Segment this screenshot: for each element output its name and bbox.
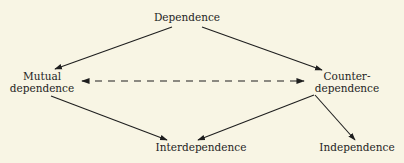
node-dependence: Dependence: [154, 11, 220, 23]
node-counter-line1: Counter-: [315, 70, 379, 82]
node-counter-line2: dependence: [315, 82, 379, 94]
edge-dependence-to-mutual: [55, 27, 172, 69]
node-independence-label: Independence: [319, 141, 394, 153]
node-mutual-dependence: Mutual dependence: [10, 70, 74, 94]
edge-dependence-to-counter: [202, 27, 322, 70]
edge-counter-to-interdependence: [198, 95, 314, 140]
node-independence: Independence: [319, 141, 394, 153]
node-counter-dependence: Counter- dependence: [315, 70, 379, 94]
edge-mutual-to-interdependence: [51, 96, 167, 140]
node-dependence-label: Dependence: [154, 11, 220, 23]
node-mutual-line2: dependence: [10, 82, 74, 94]
node-interdependence: Interdependence: [156, 141, 247, 153]
edge-counter-to-independence: [315, 95, 355, 140]
node-mutual-line1: Mutual: [10, 70, 74, 82]
node-interdependence-label: Interdependence: [156, 141, 247, 153]
